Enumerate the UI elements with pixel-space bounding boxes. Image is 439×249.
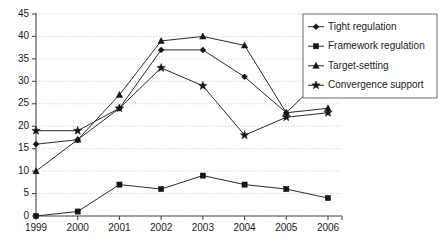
- data-point-star: [282, 113, 290, 121]
- legend-label: Convergence support: [328, 79, 424, 90]
- y-tick-label: 40: [18, 30, 30, 41]
- data-point-square: [242, 182, 247, 187]
- data-point-square: [284, 186, 289, 191]
- y-tick-label: 45: [18, 8, 30, 19]
- series-line: [36, 36, 328, 171]
- x-tick-label: 2000: [67, 222, 90, 233]
- legend-label: Framework regulation: [328, 40, 425, 51]
- data-point-star: [324, 108, 332, 116]
- x-axis: [36, 216, 342, 220]
- data-point-square: [33, 213, 38, 218]
- y-tick-labels: 051015202530354045: [18, 8, 30, 221]
- legend-label: Target-setting: [328, 60, 389, 71]
- x-tick-label: 2001: [108, 222, 131, 233]
- x-tick-label: 2004: [233, 222, 256, 233]
- data-point-star: [199, 81, 207, 89]
- data-point-square: [159, 186, 164, 191]
- data-point-square: [325, 195, 330, 200]
- data-point-square: [200, 173, 205, 178]
- series-convergence-support: [32, 63, 332, 138]
- gridlines: [36, 14, 342, 216]
- data-series-group: [32, 33, 332, 219]
- y-axis: [32, 13, 36, 216]
- x-tick-label: 2002: [150, 222, 173, 233]
- y-tick-label: 30: [18, 75, 30, 86]
- series-target-setting: [33, 33, 331, 174]
- y-tick-label: 10: [18, 165, 30, 176]
- data-point-square: [313, 44, 318, 49]
- line-chart: 051015202530354045 199920002001200220032…: [0, 0, 439, 249]
- data-point-diamond: [33, 141, 39, 147]
- data-point-square: [75, 209, 80, 214]
- y-tick-label: 35: [18, 53, 30, 64]
- data-point-diamond: [200, 47, 206, 53]
- y-tick-label: 20: [18, 120, 30, 131]
- x-tick-label: 1999: [25, 222, 48, 233]
- chart-container: 051015202530354045 199920002001200220032…: [0, 0, 439, 249]
- x-tick-label: 2005: [275, 222, 298, 233]
- y-tick-label: 0: [23, 210, 29, 221]
- legend: Tight regulationFramework regulationTarg…: [303, 14, 437, 98]
- x-tick-labels: 19992000200120022003200420052006: [25, 222, 340, 233]
- data-point-star: [74, 126, 82, 134]
- x-tick-label: 2003: [192, 222, 215, 233]
- legend-label: Tight regulation: [328, 21, 397, 32]
- y-tick-label: 15: [18, 142, 30, 153]
- y-tick-label: 5: [23, 187, 29, 198]
- y-tick-label: 25: [18, 97, 30, 108]
- x-tick-label: 2006: [317, 222, 340, 233]
- series-framework-regulation: [33, 173, 330, 219]
- data-point-square: [117, 182, 122, 187]
- series-line: [36, 68, 328, 135]
